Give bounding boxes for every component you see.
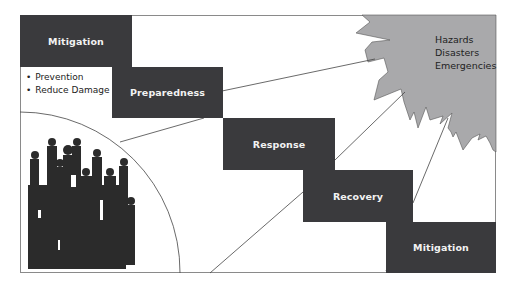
hazard-label: Hazards [435, 33, 496, 46]
hazard-label: Disasters [435, 46, 496, 59]
hazard-label: Emergencies [435, 59, 496, 72]
phase-label: Mitigation [48, 36, 104, 47]
phase-label: Response [253, 139, 305, 150]
phase-box-mitigation: Mitigation [20, 15, 132, 67]
hazard-labels: Hazards Disasters Emergencies [435, 33, 496, 72]
connector-line [210, 192, 303, 273]
mitigation-bullet-list: Prevention Reduce Damage [26, 71, 109, 97]
bullet-item: Reduce Damage [26, 84, 109, 97]
phase-box-recovery: Recovery [303, 170, 413, 222]
crowd-silhouette-icon [28, 138, 135, 269]
phase-box-preparedness: Preparedness [112, 67, 223, 118]
connector-line [120, 118, 204, 142]
connector-line [413, 118, 448, 203]
phase-box-mitigation-repeat: Mitigation [386, 222, 496, 273]
phase-label: Recovery [333, 191, 383, 202]
bullet-item: Prevention [26, 71, 109, 84]
phase-box-response: Response [223, 118, 335, 170]
phase-label: Mitigation [413, 242, 469, 253]
phase-label: Preparedness [130, 87, 205, 98]
connector-line [335, 92, 405, 160]
